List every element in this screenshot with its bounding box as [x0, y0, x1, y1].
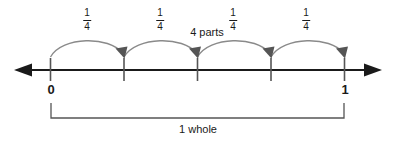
jump-arc-3: [198, 41, 270, 57]
fraction-denominator: 4: [83, 21, 91, 33]
fraction-denominator: 4: [229, 21, 237, 33]
jump-arc-4: [271, 41, 343, 57]
fraction-denominator: 4: [302, 21, 310, 33]
jump-arrowhead-1-icon: [116, 47, 128, 59]
right-arrowhead-icon: [364, 64, 382, 77]
fraction-numerator: 1: [229, 8, 237, 21]
part-fraction-2: 1 4: [156, 8, 164, 32]
number-line-graphic: [0, 0, 396, 143]
left-arrowhead-icon: [14, 64, 32, 77]
fraction-denominator: 4: [156, 21, 164, 33]
fraction-numerator: 1: [156, 8, 164, 21]
number-line-figure: 1 4 1 4 1 4 1 4 4 parts 0 1 1 whole: [0, 0, 396, 143]
jump-arrowhead-3-icon: [263, 47, 275, 59]
whole-annotation-label: 1 whole: [179, 124, 217, 135]
jump-arc-1: [51, 41, 123, 57]
part-fraction-1: 1 4: [83, 8, 91, 32]
fraction-numerator: 1: [302, 8, 310, 21]
fraction-numerator: 1: [83, 8, 91, 21]
number-line-end-label: 1: [341, 83, 348, 96]
jump-arrowhead-2-icon: [189, 47, 201, 59]
whole-bracket: [51, 103, 344, 118]
jump-arc-2: [124, 41, 196, 57]
part-fraction-4: 1 4: [302, 8, 310, 32]
number-line-start-label: 0: [47, 83, 54, 96]
part-fraction-3: 1 4: [229, 8, 237, 32]
parts-annotation-label: 4 parts: [190, 27, 224, 38]
jump-arrowhead-4-icon: [336, 47, 348, 59]
